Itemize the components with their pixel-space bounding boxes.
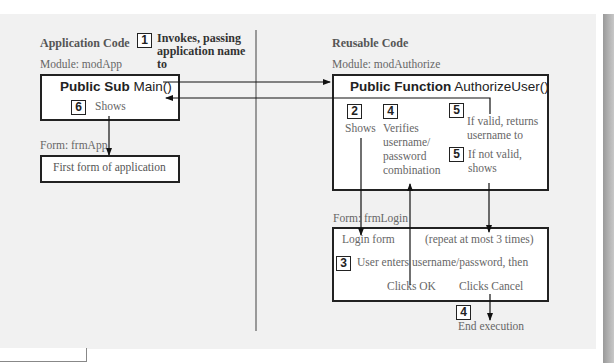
authorize-user-signature: Public Function AuthorizeUser() <box>350 79 549 94</box>
frmlogin-form-label: Form: frmLogin <box>333 212 408 224</box>
step-1-text: Invokes, passing application name to <box>157 32 252 71</box>
page-footer-tab <box>0 348 87 362</box>
modauthorize-module-label: Module: modAuthorize <box>332 58 440 70</box>
first-form-text: First form of application <box>53 161 166 173</box>
step-4-verify-text: Verifies username/ password combination <box>383 121 453 177</box>
step-4-end-badge: 4 <box>456 305 471 320</box>
step-2-badge: 2 <box>347 104 362 119</box>
modapp-module-label: Module: modApp <box>40 58 122 70</box>
step-6-text: Shows <box>95 100 126 112</box>
step-5-valid-badge: 5 <box>449 103 464 118</box>
step-6-badge: 6 <box>71 100 86 115</box>
step-5-invalid-badge: 5 <box>449 147 464 162</box>
frmapp-form-label: Form: frmApp <box>40 139 107 151</box>
step-5-valid-text: If valid, returns username to <box>467 114 547 142</box>
login-form-title: Login form <box>342 233 395 245</box>
reusable-code-heading: Reusable Code <box>332 36 408 51</box>
repeat-note: (repeat at most 3 times) <box>425 233 534 245</box>
page-edge <box>603 14 614 363</box>
main-sub-signature: Public Sub Main() <box>60 79 172 94</box>
end-execution-text: End execution <box>458 320 524 332</box>
clicks-cancel-label: Clicks Cancel <box>459 280 523 292</box>
step-1-badge: 1 <box>137 33 152 48</box>
step-4-verify-badge: 4 <box>383 104 398 119</box>
step-2-text: Shows <box>345 122 376 134</box>
step-5-invalid-text: If not valid, shows <box>468 147 543 175</box>
clicks-ok-label: Clicks OK <box>387 280 436 292</box>
step-3-badge: 3 <box>336 256 351 271</box>
application-code-heading: Application Code <box>40 36 130 51</box>
step-3-text: User enters username/password, then <box>357 256 528 268</box>
section-divider <box>255 30 257 331</box>
